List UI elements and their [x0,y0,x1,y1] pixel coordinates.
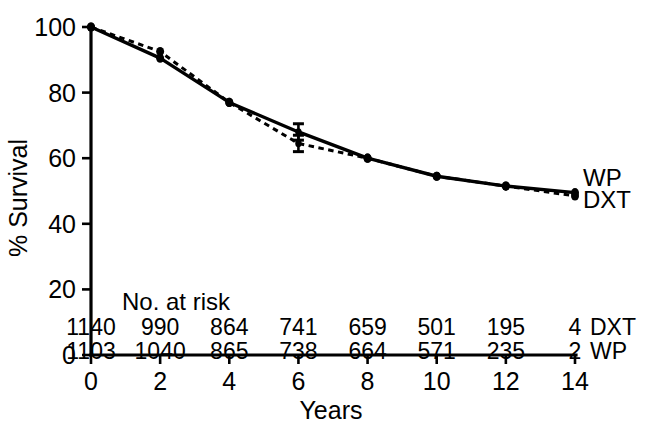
risk-cell: 1140 [66,316,115,339]
risk-cell: 571 [418,340,456,363]
y-tick-label: 100 [14,15,76,40]
y-tick-label: 80 [14,80,76,105]
x-tick-label: 4 [222,369,236,394]
risk-cell: 4 [569,316,582,339]
risk-cell: 864 [210,316,248,339]
risk-row-label-dxt: DXT [590,316,636,339]
risk-cell: 990 [141,316,179,339]
x-tick-label: 2 [153,369,167,394]
y-tick-label: 60 [14,146,76,171]
x-axis-label: Years [299,398,362,423]
data-point-dxt-y0 [87,22,95,31]
risk-cell: 865 [210,340,248,363]
data-point-dxt-y10 [433,172,441,181]
x-tick-label: 14 [561,369,589,394]
data-point-dxt-y4 [225,98,233,107]
risk-cell: 1040 [135,340,186,363]
data-point-dxt-y6 [295,140,301,147]
risk-cell: 501 [418,316,456,339]
risk-cell: 741 [279,316,317,339]
data-point-dxt-y2 [156,47,164,56]
survival-curve-figure: % Survival Years No. at risk 02040608010… [0,0,646,437]
x-tick-label: 6 [291,369,305,394]
risk-cell: 738 [279,340,317,363]
x-tick-label: 10 [423,369,451,394]
x-tick-label: 0 [84,369,98,394]
risk-cell: 664 [348,340,386,363]
data-point-dxt-y8 [364,154,372,163]
risk-cell: 235 [487,340,525,363]
error-bars-group [293,124,304,152]
risk-cell: 2 [569,340,582,363]
x-tick-label: 12 [492,369,520,394]
curve-label-dxt: DXT [583,188,631,212]
risk-row-label-wp: WP [590,340,627,363]
risk-cell: 1103 [66,340,115,363]
y-tick-label: 40 [14,211,76,236]
data-markers-group [87,22,579,200]
y-tick-label: 20 [14,277,76,302]
x-tick-label: 8 [361,369,375,394]
risk-cell: 195 [487,316,525,339]
data-point-dxt-y14 [571,191,579,200]
data-point-dxt-y12 [502,181,510,190]
risk-table-title: No. at risk [122,290,230,314]
risk-cell: 659 [348,316,386,339]
